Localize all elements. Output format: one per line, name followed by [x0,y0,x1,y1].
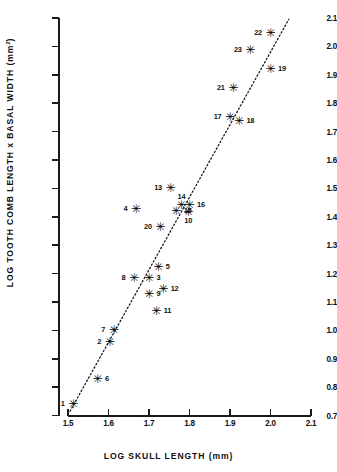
data-point-18: ✳ [234,115,244,127]
data-point-9: ✳ [144,288,154,300]
data-point-label-21: 21 [217,85,225,92]
data-point-label-2: 2 [97,338,101,345]
data-point-label-3: 3 [157,275,161,282]
data-point-12: ✳ [158,283,168,295]
data-point-label-4: 4 [124,205,128,212]
data-point-22: ✳ [265,27,275,39]
data-point-label-22: 22 [254,29,262,36]
data-point-21: ✳ [228,82,238,94]
data-point-15: ✳ [171,205,181,217]
y-axis-title: LOG TOOTH COMB LENGTH x BASAL WIDTH (mm2… [5,2,16,322]
data-point-3: ✳ [144,272,154,284]
data-point-label-12: 12 [171,285,179,292]
data-point-label-6: 6 [105,376,109,383]
data-point-label-23: 23 [234,46,242,53]
data-points-layer: ✳1✳2✳3✳4✳5✳6✳7✳8✳9✳10✳11✳12✳13✳14✳15✳16✳… [0,0,337,472]
data-point-19: ✳ [265,63,275,75]
data-point-2: ✳ [105,336,115,348]
data-point-13: ✳ [165,182,175,194]
data-point-5: ✳ [153,261,163,273]
data-point-8: ✳ [129,272,139,284]
data-point-20: ✳ [155,221,165,233]
data-point-7: ✳ [109,324,119,336]
data-point-1: ✳ [68,398,78,410]
data-point-label-18: 18 [246,117,254,124]
data-point-11: ✳ [151,305,161,317]
data-point-label-11: 11 [164,307,171,314]
data-point-label-17: 17 [214,114,222,121]
data-point-label-19: 19 [278,65,286,72]
data-point-23: ✳ [245,44,255,56]
data-point-6: ✳ [93,373,103,385]
data-point-label-10: 10 [184,217,192,224]
data-point-label-5: 5 [166,263,170,270]
data-point-16: ✳ [184,199,194,211]
data-point-label-1: 1 [61,400,65,407]
data-point-label-13: 13 [154,184,162,191]
data-point-label-16: 16 [197,202,205,209]
data-point-label-7: 7 [101,327,105,334]
data-point-label-20: 20 [144,223,152,230]
data-point-label-8: 8 [122,274,126,281]
x-axis-title: LOG SKULL LENGTH (mm) [0,451,337,461]
data-point-4: ✳ [131,203,141,215]
scatter-plot-figure: 0.70.80.91.01.11.21.31.41.51.61.71.81.92… [0,0,337,472]
